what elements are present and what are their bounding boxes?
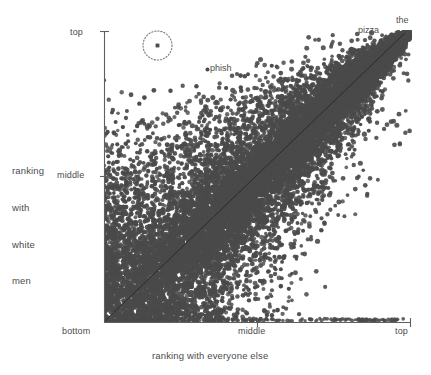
x-axis-tick-label-top: top (395, 326, 408, 338)
scatter-plot-canvas (0, 0, 431, 375)
y-axis-tick-label-middle: middle (57, 170, 84, 182)
scatter-plot-figure: ranking with white men top middle bottom… (0, 0, 431, 375)
x-axis-title: ranking with everyone else (152, 350, 268, 362)
y-axis-tick-label-top: top (70, 27, 83, 39)
y-axis-title-line-3: white (12, 239, 44, 251)
y-axis-title-line-4: men (12, 275, 44, 287)
annotation-pizza: pizza (358, 25, 379, 35)
x-axis-tick-label-bottom: bottom (62, 326, 90, 338)
y-axis-title-line-1: ranking (12, 165, 44, 177)
y-axis-title-line-2: with (12, 202, 44, 214)
x-axis-tick-label-middle: middle (238, 326, 265, 338)
outlier-point (156, 44, 160, 48)
phish-point-marker (206, 68, 210, 72)
annotation-the: the (396, 15, 409, 25)
y-axis-title: ranking with white men (12, 141, 44, 312)
annotation-phish: phish (210, 63, 232, 73)
